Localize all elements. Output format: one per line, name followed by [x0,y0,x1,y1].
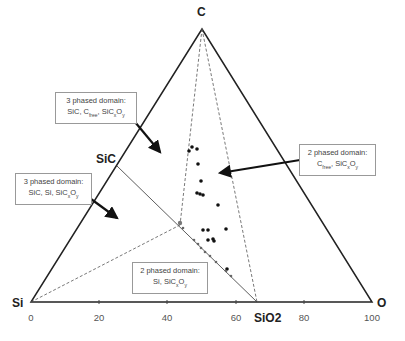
tick-40: 40 [162,312,173,323]
annotation-line: Si, SiCxOy [137,276,203,291]
annotation-line: 3 phased domain: [60,95,132,106]
annotation-2phase-si: 2 phased domain: Si, SiCxOy [132,262,208,294]
annotation-line: 2 phased domain: [137,265,203,276]
tick-0: 0 [28,312,33,323]
sio2-label: SiO2 [254,311,281,325]
annotation-2phase-cfree: 2 phased domain: Cfree, SiCxOy [299,144,376,176]
annotation-line: 3 phased domain: [20,176,87,187]
sic-label: SiC [96,152,116,166]
vertex-c-label: C [197,5,206,19]
vertex-si-label: Si [12,296,23,310]
annotation-line: Cfree, SiCxOy [304,158,371,173]
annotation-line: SiC, Si, SiCxOy [20,187,87,202]
vertex-o-label: O [377,296,386,310]
annotation-line: 2 phased domain: [304,147,371,158]
tick-20: 20 [94,312,105,323]
tick-60: 60 [231,312,242,323]
annotation-3phase-sic-si: 3 phased domain: SiC, Si, SiCxOy [15,173,92,205]
data-points [178,145,233,277]
tick-100: 100 [364,312,380,323]
annotation-line: SiC, Cfree, SiCxOy [60,106,132,121]
tick-80: 80 [299,312,310,323]
annotation-3phase-sic-cfree: 3 phased domain: SiC, Cfree, SiCxOy [55,92,137,124]
